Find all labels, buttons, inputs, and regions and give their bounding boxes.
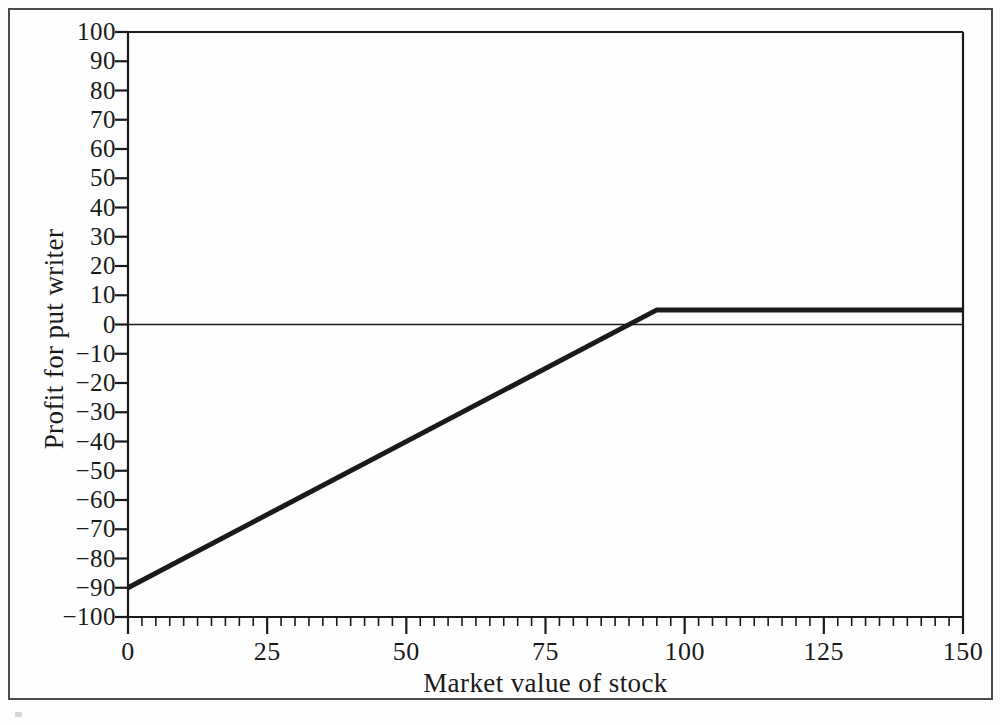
scan-artifact-mark bbox=[15, 712, 22, 717]
x-axis-tick-label: 0 bbox=[121, 639, 135, 665]
x-axis-tick-label: 100 bbox=[664, 639, 705, 665]
y-axis-title: Profit for put writer bbox=[39, 189, 69, 489]
x-axis-tick-label: 75 bbox=[532, 639, 559, 665]
figure-canvas: 1009080706050403020100−10−20−30−40−50−60… bbox=[0, 0, 1000, 725]
x-axis-tick-label-group: 0255075100125150 bbox=[0, 0, 1000, 725]
chart-plot: 1009080706050403020100−10−20−30−40−50−60… bbox=[0, 0, 1000, 725]
x-axis-tick-label: 50 bbox=[393, 639, 420, 665]
x-axis-tick-label: 25 bbox=[254, 639, 281, 665]
x-axis-title: Market value of stock bbox=[128, 668, 963, 698]
x-axis-tick-label: 150 bbox=[943, 639, 984, 665]
x-axis-tick-label: 125 bbox=[804, 639, 845, 665]
